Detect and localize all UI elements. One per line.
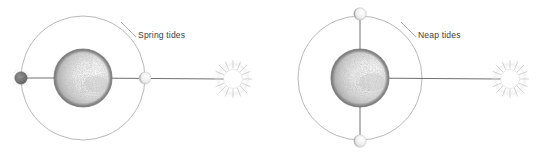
tide-alignment-illustration: Spring tides bbox=[0, 0, 540, 154]
label-spring-tides: Spring tides bbox=[138, 30, 185, 40]
figure-canvas: Spring tides bbox=[0, 0, 540, 154]
moon-full-right bbox=[139, 72, 151, 84]
label-neap-tides: Neap tides bbox=[418, 30, 461, 40]
moon-new-left bbox=[15, 72, 27, 84]
moon-quarter-top bbox=[354, 8, 366, 20]
sun-right bbox=[491, 60, 529, 98]
moon-quarter-bottom bbox=[354, 135, 366, 147]
sun-left bbox=[214, 60, 252, 98]
